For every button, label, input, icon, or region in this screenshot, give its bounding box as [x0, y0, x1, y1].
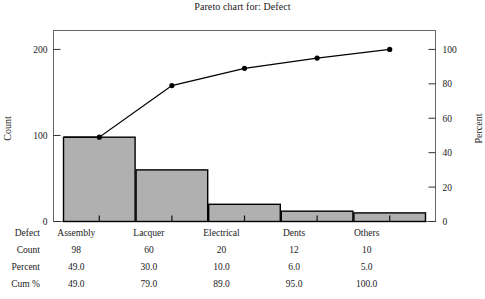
- y-tick-label-right: 80: [443, 79, 453, 89]
- table-cell: 100.0: [330, 276, 403, 293]
- table-cell-spacer: [403, 276, 485, 293]
- table-row-label: Percent: [0, 259, 40, 276]
- table-cell-spacer: [403, 259, 485, 276]
- table-cell: 89.0: [185, 276, 258, 293]
- table-cell: Assembly: [40, 225, 113, 242]
- table-row-label: Cum %: [0, 276, 40, 293]
- y-tick-label-left: 200: [33, 45, 48, 55]
- table-row-label: Defect: [0, 225, 40, 242]
- table-cell: Others: [330, 225, 403, 242]
- bar: [136, 170, 208, 222]
- table-cell-spacer: [403, 242, 485, 259]
- table-cell: 79.0: [113, 276, 186, 293]
- cumulative-point: [169, 83, 174, 88]
- table-cell: 30.0: [113, 259, 186, 276]
- table-cell: 60: [113, 242, 186, 259]
- y-tick-label-right: 40: [443, 148, 453, 158]
- table-cell: 10: [330, 242, 403, 259]
- table-cell: 95.0: [258, 276, 331, 293]
- table-cell: Dents: [258, 225, 331, 242]
- table-cell: 49.0: [40, 259, 113, 276]
- table-row: Percent49.030.010.06.05.0: [0, 259, 485, 276]
- table-row-label: Count: [0, 242, 40, 259]
- y-tick-label-left: 100: [33, 131, 48, 141]
- table-cell: 12: [258, 242, 331, 259]
- table-cell: 20: [185, 242, 258, 259]
- bar: [64, 137, 136, 221]
- table-row: Cum %49.079.089.095.0100.0: [0, 276, 485, 293]
- cumulative-point: [97, 135, 102, 140]
- table-cell: Electrical: [185, 225, 258, 242]
- table-row: Count9860201210: [0, 242, 485, 259]
- y-tick-label-right: 60: [443, 114, 453, 124]
- cumulative-point: [315, 55, 320, 60]
- table-cell: Lacquer: [113, 225, 186, 242]
- y-tick-label-right: 100: [443, 45, 458, 55]
- pareto-data-table: DefectAssemblyLacquerElectricalDentsOthe…: [0, 225, 485, 293]
- pareto-chart: Pareto chart for: Defect Count Percent 0…: [0, 0, 485, 299]
- table-cell: 10.0: [185, 259, 258, 276]
- y-tick-label-right: 20: [443, 183, 453, 193]
- table-cell: 49.0: [40, 276, 113, 293]
- table-cell: 5.0: [330, 259, 403, 276]
- table-cell: 98: [40, 242, 113, 259]
- cumulative-point: [242, 66, 247, 71]
- table-cell: 6.0: [258, 259, 331, 276]
- cumulative-point: [387, 47, 392, 52]
- table-cell-spacer: [403, 225, 485, 242]
- table-row: DefectAssemblyLacquerElectricalDentsOthe…: [0, 225, 485, 242]
